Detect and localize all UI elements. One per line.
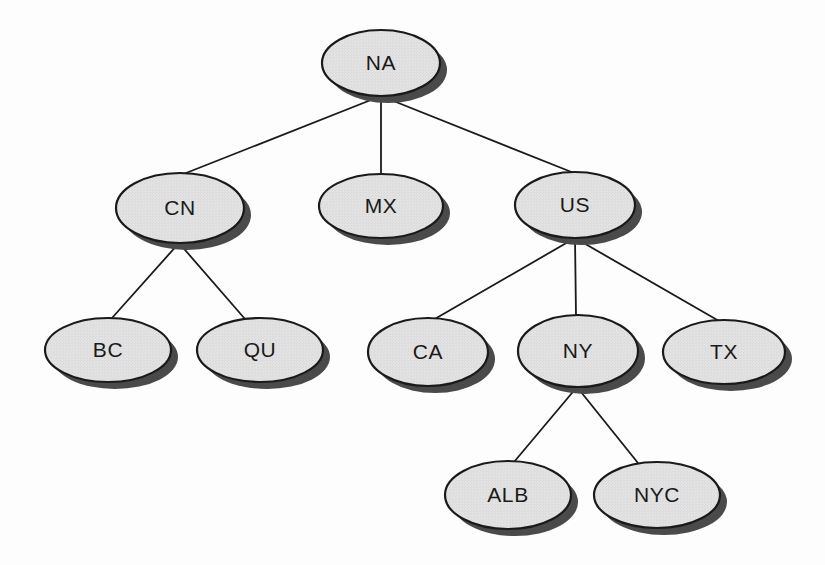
tree-node-mx[interactable]: MX	[319, 174, 443, 238]
edge-cn-to-qu	[179, 243, 245, 319]
edge-cn-to-bc	[112, 243, 179, 318]
tree-node-cn[interactable]: CN	[116, 173, 244, 243]
tree-node-qu[interactable]: QU	[197, 318, 323, 382]
node-label-ny: NY	[563, 339, 593, 362]
node-label-bc: BC	[93, 338, 123, 361]
node-label-mx: MX	[365, 194, 398, 217]
tree-node-nyc[interactable]: NYC	[594, 462, 720, 528]
tree-node-na[interactable]: NA	[322, 30, 440, 96]
tree-node-us[interactable]: US	[515, 172, 635, 238]
tree-diagram-canvas: NACNMXUSBCQUCANYTXALBNYC	[0, 0, 825, 565]
edge-na-to-us	[381, 96, 574, 173]
node-label-alb: ALB	[487, 483, 529, 506]
tree-node-tx[interactable]: TX	[663, 320, 785, 384]
tree-diagram-svg: NACNMXUSBCQUCANYTXALBNYC	[0, 0, 825, 565]
node-label-us: US	[560, 193, 590, 216]
tree-node-ca[interactable]: CA	[368, 318, 488, 386]
edge-us-to-ca	[433, 238, 575, 320]
node-label-qu: QU	[244, 338, 277, 361]
node-label-nyc: NYC	[634, 483, 680, 506]
tree-node-bc[interactable]: BC	[45, 318, 171, 382]
edge-ny-to-alb	[514, 387, 577, 462]
edge-us-to-ny	[575, 238, 576, 316]
tree-node-ny[interactable]: NY	[518, 315, 638, 387]
edge-ny-to-nyc	[577, 387, 638, 463]
node-label-na: NA	[366, 51, 396, 74]
edge-na-to-cn	[181, 96, 381, 175]
node-layer: NACNMXUSBCQUCANYTXALBNYC	[45, 30, 785, 529]
edge-us-to-tx	[575, 238, 719, 321]
edge-layer	[112, 96, 719, 463]
node-label-ca: CA	[413, 340, 443, 363]
tree-node-alb[interactable]: ALB	[445, 461, 571, 529]
node-label-tx: TX	[710, 340, 738, 363]
node-label-cn: CN	[164, 196, 196, 219]
